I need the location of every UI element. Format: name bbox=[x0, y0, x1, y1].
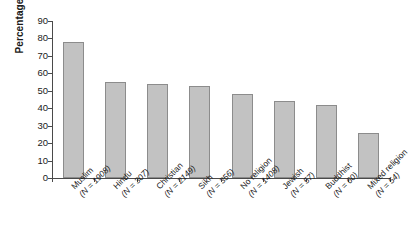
y-tick-mark bbox=[48, 21, 52, 22]
y-tick-label: 40 bbox=[26, 102, 48, 113]
y-tick-mark bbox=[48, 108, 52, 109]
y-tick-label: 30 bbox=[26, 120, 48, 131]
y-tick-mark bbox=[48, 126, 52, 127]
y-tick-mark bbox=[48, 143, 52, 144]
y-tick-label: 20 bbox=[26, 137, 48, 148]
y-tick-mark bbox=[48, 56, 52, 57]
y-tick-mark bbox=[48, 38, 52, 39]
y-tick-mark bbox=[48, 73, 52, 74]
y-tick-label: 50 bbox=[26, 85, 48, 96]
y-tick-mark bbox=[48, 161, 52, 162]
y-tick-label: 60 bbox=[26, 67, 48, 78]
y-tick-label: 0 bbox=[26, 172, 48, 183]
bar bbox=[189, 86, 210, 178]
bar bbox=[105, 82, 126, 178]
bar bbox=[63, 42, 84, 178]
bar bbox=[316, 105, 337, 178]
plot-area: 9080706050403020100 bbox=[52, 21, 390, 178]
y-tick-mark bbox=[48, 91, 52, 92]
bar bbox=[147, 84, 168, 178]
y-tick-label: 10 bbox=[26, 155, 48, 166]
x-tick-mark bbox=[52, 178, 53, 182]
y-tick-label: 90 bbox=[26, 15, 48, 26]
bar bbox=[232, 94, 253, 178]
y-tick-label: 70 bbox=[26, 50, 48, 61]
bar-chart: Percentage 9080706050403020100 Muslim(N … bbox=[0, 0, 416, 252]
y-tick-label: 80 bbox=[26, 32, 48, 43]
